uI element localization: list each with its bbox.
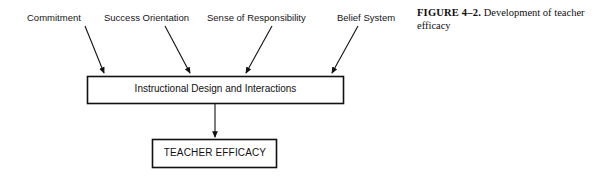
instructional-design-box-label: Instructional Design and Interactions <box>88 83 343 95</box>
arrow-belief-system <box>332 26 358 73</box>
figure-caption-number: FIGURE 4–2. <box>417 7 481 18</box>
source-label-sense-of-responsibility: Sense of Responsibility <box>207 12 306 23</box>
arrow-success-orientation <box>165 26 190 73</box>
figure-caption: FIGURE 4–2. Development of teacher effic… <box>417 7 593 32</box>
source-label-belief-system: Belief System <box>337 12 395 23</box>
teacher-efficacy-box-label: TEACHER EFFICACY <box>153 147 277 159</box>
arrow-sense-of-responsibility <box>246 26 272 73</box>
figure-container: Commitment Success Orientation Sense of … <box>0 0 597 180</box>
source-label-success-orientation: Success Orientation <box>104 12 189 23</box>
source-label-commitment: Commitment <box>27 12 81 23</box>
arrow-commitment <box>85 26 104 73</box>
